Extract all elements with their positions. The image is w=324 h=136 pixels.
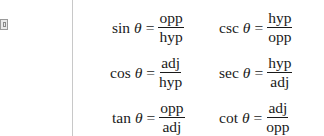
- theta-symbol: θ: [243, 19, 251, 37]
- denominator: hyp: [159, 28, 182, 45]
- function-name: sin: [112, 19, 130, 37]
- margin-marker-icon: [0, 19, 8, 30]
- formula-tan: tan θ = opp adj: [112, 100, 185, 135]
- fraction: hyp opp: [267, 10, 292, 45]
- numerator: hyp: [267, 10, 292, 28]
- function-name: cot: [219, 109, 238, 127]
- equals-sign: =: [147, 109, 156, 127]
- numerator: adj: [267, 100, 288, 118]
- function-name: csc: [219, 19, 239, 37]
- denominator: opp: [268, 28, 291, 45]
- fraction: opp adj: [159, 100, 184, 135]
- numerator: adj: [160, 55, 181, 73]
- equals-sign: =: [254, 64, 263, 82]
- denominator: adj: [162, 118, 181, 135]
- theta-symbol: θ: [135, 109, 143, 127]
- function-name: tan: [112, 109, 131, 127]
- fraction: adj hyp: [159, 55, 182, 90]
- theta-symbol: θ: [242, 109, 250, 127]
- fraction: adj opp: [266, 100, 289, 135]
- denominator: opp: [266, 118, 289, 135]
- numerator: opp: [158, 10, 183, 28]
- function-name: sec: [219, 64, 239, 82]
- equals-sign: =: [146, 64, 155, 82]
- formula-sec: sec θ = hyp adj: [219, 55, 292, 90]
- formula-cot: cot θ = adj opp: [219, 100, 290, 135]
- fraction: opp hyp: [158, 10, 183, 45]
- numerator: hyp: [267, 55, 292, 73]
- formula-csc: csc θ = hyp opp: [219, 10, 292, 45]
- function-name: cos: [110, 64, 131, 82]
- fraction: hyp adj: [267, 55, 292, 90]
- equals-sign: =: [146, 19, 155, 37]
- column-divider: [72, 0, 73, 136]
- theta-symbol: θ: [243, 64, 251, 82]
- equals-sign: =: [254, 19, 263, 37]
- numerator: opp: [159, 100, 184, 118]
- theta-symbol: θ: [135, 64, 143, 82]
- denominator: hyp: [159, 73, 182, 90]
- equals-sign: =: [254, 109, 263, 127]
- formula-sin: sin θ = opp hyp: [112, 10, 184, 45]
- theta-symbol: θ: [134, 19, 142, 37]
- denominator: adj: [270, 73, 289, 90]
- formula-cos: cos θ = adj hyp: [110, 55, 182, 90]
